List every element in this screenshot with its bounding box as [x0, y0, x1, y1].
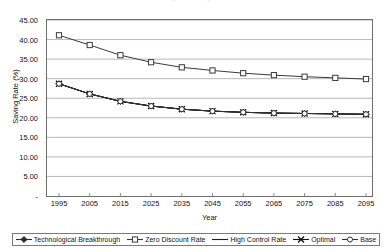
- data-point-marker: [348, 237, 353, 242]
- data-point-marker: [21, 236, 27, 242]
- x-tick-label: 2085: [327, 199, 344, 208]
- x-tick-label: 2015: [112, 199, 129, 208]
- chart-container: Figure Saving Rate Saving Rate (%) -5.00…: [0, 0, 392, 249]
- legend-marker-icon: [342, 235, 358, 244]
- data-point-marker: [298, 237, 305, 243]
- x-axis-tick-labels: 1995200520152025203520452055206520752085…: [0, 0, 392, 249]
- x-tick-label: 2065: [266, 199, 283, 208]
- x-tick-label: 2035: [173, 199, 190, 208]
- data-point-marker: [133, 237, 138, 242]
- legend-item[interactable]: High Control Rate: [212, 235, 286, 244]
- x-axis-title: Year: [46, 213, 373, 222]
- legend-marker-icon: [212, 235, 228, 244]
- x-tick-label: 2025: [143, 199, 160, 208]
- legend-label: Technological Breakthrough: [34, 236, 120, 243]
- x-tick-label: 2095: [358, 199, 375, 208]
- legend-item[interactable]: Optimal: [293, 235, 335, 244]
- x-tick-label: 2045: [204, 199, 221, 208]
- x-tick-label: 2055: [235, 199, 252, 208]
- chart-legend: Technological BreakthroughZero Discount …: [12, 233, 380, 246]
- legend-label: Optimal: [311, 236, 335, 243]
- legend-marker-icon: [293, 235, 309, 244]
- legend-label: Zero Discount Rate: [145, 236, 205, 243]
- legend-marker-icon: [16, 235, 32, 244]
- legend-marker-icon: [127, 235, 143, 244]
- legend-label: High Control Rate: [230, 236, 286, 243]
- legend-item[interactable]: Base: [342, 235, 376, 244]
- x-tick-label: 1995: [51, 199, 68, 208]
- x-tick-label: 2075: [296, 199, 313, 208]
- legend-item[interactable]: Technological Breakthrough: [16, 235, 120, 244]
- legend-item[interactable]: Zero Discount Rate: [127, 235, 205, 244]
- legend-label: Base: [360, 236, 376, 243]
- x-tick-label: 2005: [81, 199, 98, 208]
